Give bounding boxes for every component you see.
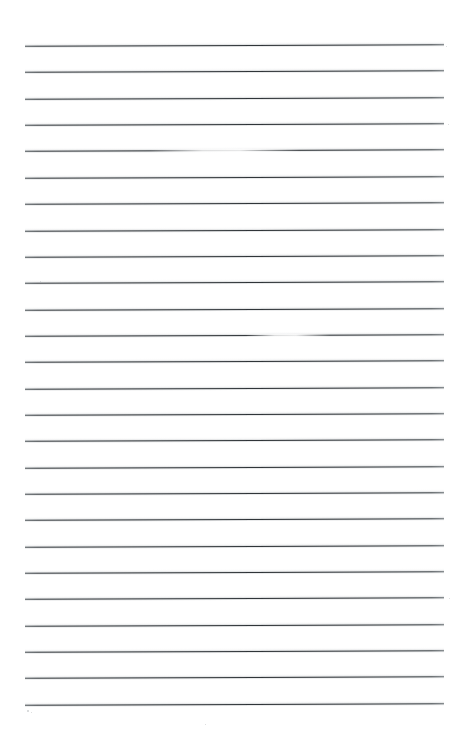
writing-area[interactable] bbox=[25, 32, 444, 717]
scanned-page bbox=[0, 0, 462, 743]
